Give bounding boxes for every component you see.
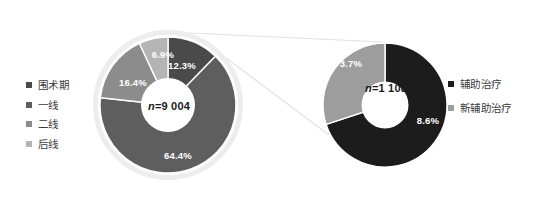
right-legend-label: 新辅助治疗 — [460, 103, 512, 114]
left-legend-item[interactable]: 后线 — [26, 139, 69, 150]
left-legend-label: 一线 — [38, 100, 59, 111]
right-legend-label: 辅助治疗 — [460, 79, 501, 90]
donut-chart-figure: 12.3% 64.4% 16.4% 6.9% n=9 004 8.6% 3.7%… — [0, 0, 539, 208]
left-donut-center-label: n=9 004 — [148, 100, 190, 112]
left-legend-item[interactable]: 一线 — [26, 100, 69, 111]
left-legend-label: 围术期 — [38, 80, 69, 91]
legend-swatch-icon — [26, 102, 32, 108]
left-slice-label-first-line: 64.4% — [164, 150, 192, 161]
right-slice-label-neoadjuvant: 3.7% — [340, 58, 362, 69]
left-legend-label: 二线 — [38, 119, 59, 130]
legend-swatch-icon — [26, 141, 32, 147]
left-slice-label-perioperative: 12.3% — [168, 60, 196, 71]
legend-swatch-icon — [26, 121, 32, 127]
left-legend-label: 后线 — [38, 139, 59, 150]
right-legend-item[interactable]: 新辅助治疗 — [448, 103, 512, 114]
left-slice-label-later-line: 6.9% — [152, 49, 174, 60]
right-legend: 辅助治疗新辅助治疗 — [448, 79, 512, 113]
left-legend-item[interactable]: 围术期 — [26, 80, 69, 91]
left-slice-label-second-line: 16.4% — [119, 77, 147, 88]
legend-swatch-icon — [448, 105, 454, 111]
right-center-n-symbol: n — [365, 82, 372, 94]
left-center-n-value: =9 004 — [155, 100, 190, 112]
left-center-n-symbol: n — [148, 100, 155, 112]
right-legend-item[interactable]: 辅助治疗 — [448, 79, 512, 90]
right-center-n-value: =1 108 — [372, 82, 407, 94]
right-slice-label-adjuvant: 8.6% — [417, 115, 439, 126]
legend-swatch-icon — [448, 81, 454, 87]
left-legend: 围术期一线二线后线 — [26, 80, 69, 149]
left-legend-item[interactable]: 二线 — [26, 119, 69, 130]
legend-swatch-icon — [26, 82, 32, 88]
right-donut-center-label: n=1 108 — [365, 82, 407, 94]
